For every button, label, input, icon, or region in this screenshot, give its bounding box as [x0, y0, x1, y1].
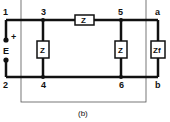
impedance-shunt-left-label: Z: [40, 46, 45, 55]
impedance-load-label: Zf: [153, 46, 161, 55]
junction-dot-4: [41, 75, 45, 79]
figure-caption: (b): [78, 109, 88, 118]
node-label-5: 5: [118, 7, 123, 17]
impedance-shunt-right-label: Z: [118, 46, 123, 55]
node-label-b: b: [155, 80, 161, 90]
node-label-2: 2: [3, 80, 8, 90]
impedance-series-label: Z: [81, 16, 86, 25]
source-label-E: E: [3, 46, 9, 56]
node-label-4: 4: [41, 80, 46, 90]
node-label-1: 1: [3, 7, 8, 17]
node-label-a: a: [155, 7, 161, 17]
source-polarity-plus: +: [11, 32, 16, 42]
circuit-diagram: 1 3 5 a 2 4 6 b + E Z Z Z Zf (b): [0, 0, 170, 122]
junction-dot-5: [119, 18, 123, 22]
source-terminal-minus: [3, 57, 8, 62]
junction-dot-6: [119, 75, 123, 79]
node-label-3: 3: [41, 7, 46, 17]
node-label-6: 6: [119, 80, 124, 90]
source-terminal-plus: [3, 37, 8, 42]
junction-dot-3: [41, 18, 45, 22]
